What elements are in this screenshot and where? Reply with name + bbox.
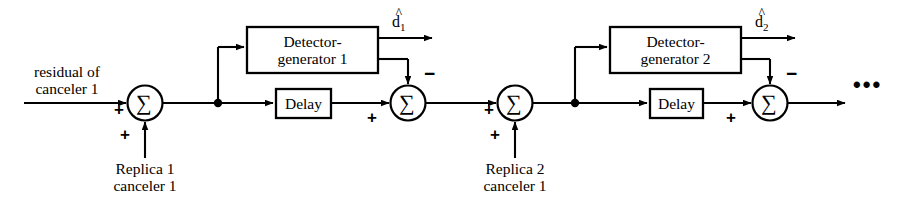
sign-sum4-detector: − [786,64,797,83]
sum-symbol-2: ∑ [399,92,415,114]
output-base-2: d [755,13,763,30]
detector-generator-1-line2: generator 1 [277,50,347,67]
sum-symbol-1: ∑ [136,92,152,114]
replica-1-line2: canceler 1 [90,178,200,195]
sign-sum2-delay: + [367,109,377,126]
detector-generator-2-line2: generator 2 [640,50,710,67]
detector-generator-2-line1: Detector- [646,33,704,50]
sign-sum4-delay: + [726,109,736,126]
sign-sum2-detector: − [424,64,435,83]
output-base-1: d [392,13,400,30]
branch-node-2-dot [571,99,579,107]
sign-sum1-replica: + [120,126,130,143]
input-label-line1: residual of [12,64,122,81]
input-label: residual of canceler 1 [12,64,122,97]
block-diagram-canvas: residual of canceler 1 ∑ ∑ ∑ ∑ + + + − +… [0,0,903,218]
output-label-d-hat-1: ^ d1 [392,14,406,33]
delay-2-label: Delay [650,89,703,118]
replica-1-line1: Replica 1 [90,161,200,178]
detector-generator-2-label: Detector- generator 2 [610,27,741,73]
delay-1-label: Delay [276,89,331,118]
output-subscript-1: 1 [400,21,406,33]
sign-sum3-input: + [484,101,494,118]
sign-sum1-input: + [114,101,124,118]
sum-symbol-4: ∑ [761,92,777,114]
sign-sum3-replica: + [490,126,500,143]
output-subscript-2: 2 [763,21,769,33]
branch-node-1-dot [214,99,222,107]
output-label-d-hat-2: ^ d2 [755,14,769,33]
detector-generator-1-line1: Detector- [283,33,341,50]
detector-generator-1-label: Detector- generator 1 [247,27,378,73]
sum-symbol-3: ∑ [506,92,522,114]
replica-2-line2: canceler 1 [460,178,570,195]
replica-1-label: Replica 1 canceler 1 [90,161,200,194]
continuation-ellipsis: ••• [853,74,882,96]
replica-2-line1: Replica 2 [460,161,570,178]
input-label-line2: canceler 1 [12,81,122,98]
replica-2-label: Replica 2 canceler 1 [460,161,570,194]
